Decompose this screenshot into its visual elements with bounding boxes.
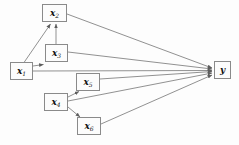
edge-x2-y — [67, 14, 212, 68]
node-x1[interactable]: x1 — [10, 62, 33, 80]
node-x1-subscript: 1 — [22, 70, 26, 77]
node-x4-base: x — [51, 97, 56, 107]
graph-canvas: x1 x2 x3 x4 x5 x6 y — [0, 0, 239, 145]
node-x5[interactable]: x5 — [76, 73, 100, 91]
node-x2-subscript: 2 — [55, 12, 59, 19]
edge-x4-x5 — [68, 92, 79, 98]
node-x5-subscript: 5 — [89, 81, 93, 88]
edge-x4-x6 — [68, 107, 80, 117]
node-x3[interactable]: x3 — [45, 44, 68, 62]
node-x4[interactable]: x4 — [44, 93, 68, 111]
edge-x6-y — [101, 75, 212, 124]
node-x6[interactable]: x6 — [77, 117, 101, 135]
edge-layer — [0, 0, 239, 145]
node-x2[interactable]: x2 — [42, 4, 67, 22]
node-x3-subscript: 3 — [57, 52, 61, 59]
node-x5-base: x — [83, 77, 88, 87]
node-y-base: y — [220, 65, 225, 75]
edge-x1-y — [33, 71, 212, 72]
node-x6-base: x — [84, 121, 89, 131]
edge-x5-y — [100, 72, 212, 80]
edge-x3-y — [68, 52, 212, 69]
node-x6-subscript: 6 — [90, 125, 94, 132]
edge-x1-x3 — [33, 65, 44, 67]
node-y[interactable]: y — [214, 61, 231, 79]
node-x4-subscript: 4 — [57, 101, 61, 108]
